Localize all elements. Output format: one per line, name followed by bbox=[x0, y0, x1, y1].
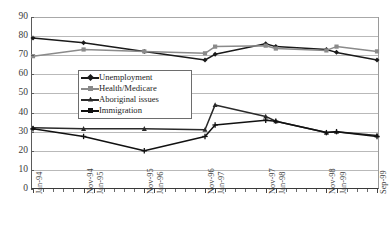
legend-item[interactable]: Health/Medicare bbox=[81, 83, 189, 94]
x-tick-label: Jan-98 bbox=[279, 172, 287, 194]
y-tick-label: 20 bbox=[2, 146, 28, 156]
legend-swatch-icon bbox=[81, 83, 99, 94]
y-tick-label: 50 bbox=[2, 88, 28, 98]
x-tick-label: Nov-97 bbox=[269, 168, 277, 194]
x-tick-label: Jan-99 bbox=[340, 172, 348, 194]
y-tick bbox=[31, 36, 34, 37]
y-tick bbox=[31, 93, 34, 94]
x-tick-label: Jan-97 bbox=[218, 172, 226, 194]
y-tick-label: 70 bbox=[2, 50, 28, 60]
y-tick-label: 30 bbox=[2, 127, 28, 137]
legend-swatch-icon bbox=[81, 94, 99, 105]
x-tick-label: Sep-99 bbox=[380, 170, 388, 194]
x-tick-label: Jan-95 bbox=[97, 172, 105, 194]
y-tick bbox=[31, 17, 34, 18]
y-tick bbox=[31, 74, 34, 75]
legend-item-label: Aboriginal issues bbox=[99, 94, 159, 105]
legend-item[interactable]: Immigration bbox=[81, 105, 189, 116]
legend-item-label: Unemployment bbox=[99, 72, 152, 83]
y-tick bbox=[31, 55, 34, 56]
series-immigration bbox=[30, 118, 379, 154]
line-chart: 0102030405060708090 Jan-94Nov-94Jan-95No… bbox=[0, 0, 390, 236]
x-tick-label: Nov-96 bbox=[208, 168, 216, 194]
y-tick bbox=[31, 170, 34, 171]
y-axis-labels: 0102030405060708090 bbox=[0, 17, 28, 189]
y-tick-label: 80 bbox=[2, 31, 28, 41]
x-tick-label: Nov-98 bbox=[329, 168, 337, 194]
chart-legend: UnemploymentHealth/MedicareAboriginal is… bbox=[78, 70, 192, 119]
x-tick-label: Nov-94 bbox=[87, 168, 95, 194]
y-tick bbox=[31, 113, 34, 114]
y-tick-label: 60 bbox=[2, 69, 28, 79]
legend-swatch-icon bbox=[81, 105, 99, 116]
x-tick-label: Nov-95 bbox=[147, 168, 155, 194]
y-tick-label: 90 bbox=[2, 12, 28, 22]
y-tick bbox=[31, 189, 34, 190]
series-health-medicare bbox=[31, 44, 379, 59]
cut-off-title bbox=[0, 0, 390, 4]
y-tick bbox=[31, 151, 34, 152]
y-tick-label: 40 bbox=[2, 108, 28, 118]
x-axis-labels: Jan-94Nov-94Jan-95Nov-95Jan-96Nov-96Jan-… bbox=[0, 192, 390, 236]
x-tick-label: Jan-96 bbox=[157, 172, 165, 194]
legend-swatch-icon bbox=[81, 72, 99, 83]
y-tick-label: 10 bbox=[2, 165, 28, 175]
legend-item[interactable]: Aboriginal issues bbox=[81, 94, 189, 105]
legend-item-label: Immigration bbox=[99, 105, 142, 116]
legend-item[interactable]: Unemployment bbox=[81, 72, 189, 83]
x-tick-label: Jan-94 bbox=[36, 172, 44, 194]
y-tick bbox=[31, 132, 34, 133]
legend-item-label: Health/Medicare bbox=[99, 83, 157, 94]
